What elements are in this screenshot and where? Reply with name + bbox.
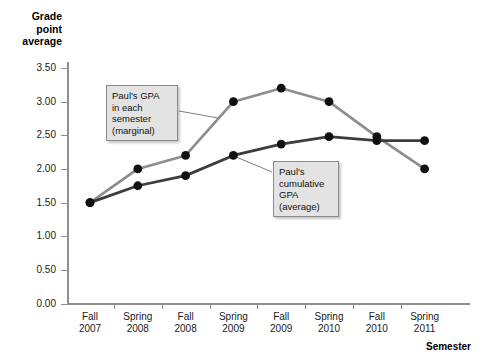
data-point-s1-3	[229, 151, 238, 160]
data-point-s1-6	[372, 136, 381, 145]
y-axis-tick	[61, 236, 68, 237]
data-point-s0-4	[277, 84, 286, 93]
y-axis-tick-label: 3.00	[18, 97, 56, 107]
y-axis-tick-label: 2.00	[18, 164, 56, 174]
data-point-s0-2	[181, 151, 190, 160]
callout-marginal-gpa: Paul's GPA in each semester (marginal)	[106, 85, 178, 141]
y-axis-line	[67, 62, 69, 304]
y-axis-title: Grade point average	[8, 10, 62, 48]
data-point-s1-5	[325, 132, 334, 141]
y-axis-tick-label: 0.50	[18, 265, 56, 275]
data-point-s1-2	[181, 171, 190, 180]
y-axis-tick-label: 2.50	[18, 130, 56, 140]
x-axis-tick	[114, 303, 115, 309]
gpa-line-chart: Grade point average 0.000.501.001.502.00…	[0, 0, 483, 362]
y-axis-tick-label: 1.00	[18, 231, 56, 241]
y-axis-tick-label: 3.50	[18, 63, 56, 73]
y-axis-tick-label: 1.50	[18, 198, 56, 208]
y-axis-tick	[61, 169, 68, 170]
data-point-s1-0	[86, 198, 95, 207]
data-point-s1-4	[277, 140, 286, 149]
series-line-1	[90, 137, 425, 203]
y-axis-tick	[61, 270, 68, 271]
x-axis-tick	[353, 303, 354, 309]
y-axis-tick	[61, 304, 68, 305]
x-axis-tick	[257, 303, 258, 309]
data-point-s0-6	[372, 132, 381, 141]
x-axis-title: Semester	[426, 341, 471, 352]
x-axis-tick-label: Spring 2011	[387, 311, 463, 335]
callout-cumulative-gpa: Paul's cumulative GPA (average)	[273, 161, 339, 217]
x-axis-tick	[401, 303, 402, 309]
x-axis-tick	[162, 303, 163, 309]
y-axis-tick	[61, 135, 68, 136]
data-point-s1-7	[420, 136, 429, 145]
y-axis-tick	[61, 102, 68, 103]
series-plot	[0, 0, 483, 362]
y-axis-tick-label: 0.00	[18, 299, 56, 309]
y-axis-tick	[61, 68, 68, 69]
callout-leader-line-0	[179, 111, 218, 118]
data-point-s0-7	[420, 165, 429, 174]
data-point-s1-1	[133, 181, 142, 190]
data-point-s0-0	[86, 198, 95, 207]
x-axis-line	[67, 303, 470, 305]
y-axis-tick	[61, 203, 68, 204]
data-point-s0-5	[325, 97, 334, 106]
callout-leader-line-1	[229, 154, 272, 172]
data-point-s0-1	[133, 165, 142, 174]
data-point-s0-3	[229, 97, 238, 106]
x-axis-tick	[305, 303, 306, 309]
x-axis-tick	[210, 303, 211, 309]
